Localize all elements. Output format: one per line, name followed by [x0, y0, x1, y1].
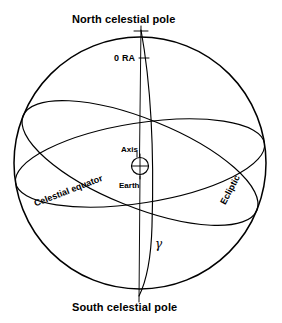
polar-axis-upper: [140, 26, 142, 158]
label-south-celestial-pole: South celestial pole: [72, 302, 177, 313]
label-vernal-equinox: γ: [155, 238, 162, 250]
label-earth: Earth: [119, 182, 139, 190]
label-zero-ra: 0 RA: [114, 54, 135, 63]
celestial-sphere-diagram: North celestial pole 0 RA Axis Earth Cel…: [0, 0, 282, 323]
celestial-sphere-graphic: [0, 0, 282, 323]
polar-axis-lower: [139, 176, 140, 302]
label-north-celestial-pole: North celestial pole: [72, 14, 175, 25]
label-axis: Axis: [121, 146, 138, 154]
